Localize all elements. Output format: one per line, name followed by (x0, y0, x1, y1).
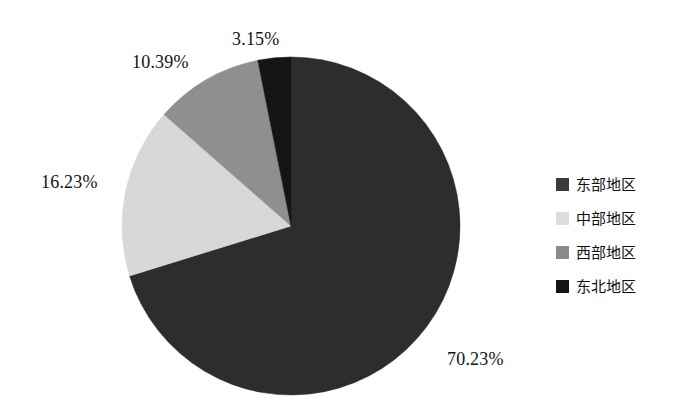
pie-label-central: 16.23% (41, 172, 98, 192)
pie-label-west: 10.39% (132, 52, 189, 72)
legend-item-central: 中部地区 (556, 201, 688, 235)
legend-item-west: 西部地区 (556, 235, 688, 269)
legend-item-northeast: 东北地区 (556, 269, 688, 303)
legend-swatch-central-icon (556, 212, 569, 225)
legend-label-west: 西部地区 (576, 244, 636, 261)
legend-swatch-east-icon (556, 178, 569, 191)
legend-label-central: 中部地区 (576, 210, 636, 227)
legend-swatch-west-icon (556, 246, 569, 259)
legend-item-east: 东部地区 (556, 167, 688, 201)
legend-label-east: 东部地区 (576, 176, 636, 193)
pie-slice-group (122, 57, 460, 395)
chart-legend: 东部地区 中部地区 西部地区 东北地区 (556, 167, 688, 303)
legend-label-northeast: 东北地区 (576, 278, 636, 295)
pie-label-east: 70.23% (447, 349, 504, 369)
legend-swatch-northeast-icon (556, 280, 569, 293)
pie-label-northeast: 3.15% (232, 29, 280, 49)
pie-chart-figure: 3.15% 10.39% 16.23% 70.23% 东部地区 中部地区 西部地… (0, 0, 691, 418)
